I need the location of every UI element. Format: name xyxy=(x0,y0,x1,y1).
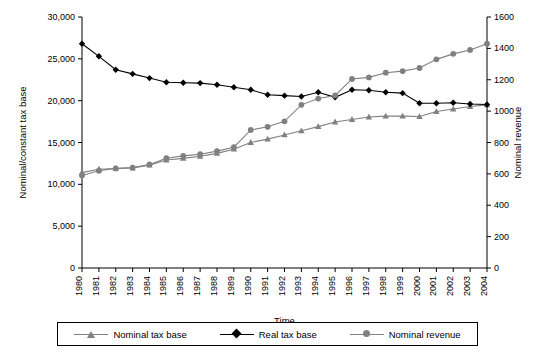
legend-label: Nominal tax base xyxy=(113,329,186,340)
svg-text:1997: 1997 xyxy=(361,276,371,296)
svg-text:1994: 1994 xyxy=(310,276,320,296)
svg-text:25,000: 25,000 xyxy=(47,54,75,64)
svg-text:2000: 2000 xyxy=(412,276,422,296)
svg-text:1981: 1981 xyxy=(91,276,101,296)
svg-text:2003: 2003 xyxy=(462,276,472,296)
svg-text:2004: 2004 xyxy=(479,276,489,296)
svg-text:1995: 1995 xyxy=(327,276,337,296)
triangle-icon xyxy=(74,329,108,339)
svg-text:2002: 2002 xyxy=(445,276,455,296)
svg-text:Nominal revenue: Nominal revenue xyxy=(512,107,523,179)
circle-icon xyxy=(350,329,384,339)
svg-text:15,000: 15,000 xyxy=(47,138,75,148)
svg-text:400: 400 xyxy=(494,200,509,210)
svg-text:1988: 1988 xyxy=(209,276,219,296)
svg-text:10,000: 10,000 xyxy=(47,179,75,189)
chart-container: 05,00010,00015,00020,00025,00030,0000200… xyxy=(0,0,535,357)
legend-item-nominal-revenue: Nominal revenue xyxy=(350,329,461,340)
legend-item-real-tax-base: Real tax base xyxy=(220,329,317,340)
svg-text:1996: 1996 xyxy=(344,276,354,296)
svg-text:1999: 1999 xyxy=(395,276,405,296)
svg-text:1989: 1989 xyxy=(226,276,236,296)
svg-text:30,000: 30,000 xyxy=(47,12,75,22)
svg-text:Nominal/constant tax base: Nominal/constant tax base xyxy=(17,87,28,199)
svg-text:0: 0 xyxy=(494,263,499,273)
svg-text:1990: 1990 xyxy=(243,276,253,296)
svg-text:800: 800 xyxy=(494,138,509,148)
svg-text:1993: 1993 xyxy=(293,276,303,296)
svg-text:1987: 1987 xyxy=(192,276,202,296)
legend-label: Real tax base xyxy=(259,329,317,340)
svg-text:1200: 1200 xyxy=(494,75,514,85)
svg-text:1998: 1998 xyxy=(378,276,388,296)
chart-legend: Nominal tax base Real tax base Nominal r… xyxy=(57,322,478,346)
svg-text:2001: 2001 xyxy=(428,276,438,296)
svg-text:1983: 1983 xyxy=(125,276,135,296)
svg-text:20,000: 20,000 xyxy=(47,96,75,106)
svg-text:600: 600 xyxy=(494,169,509,179)
svg-text:1985: 1985 xyxy=(158,276,168,296)
legend-item-nominal-tax-base: Nominal tax base xyxy=(74,329,186,340)
svg-text:1600: 1600 xyxy=(494,12,514,22)
legend-label: Nominal revenue xyxy=(389,329,461,340)
svg-text:1991: 1991 xyxy=(260,276,270,296)
svg-text:0: 0 xyxy=(70,263,75,273)
svg-text:1992: 1992 xyxy=(277,276,287,296)
svg-text:5,000: 5,000 xyxy=(52,221,75,231)
svg-text:1984: 1984 xyxy=(142,276,152,296)
svg-text:1982: 1982 xyxy=(108,276,118,296)
line-chart-plot: 05,00010,00015,00020,00025,00030,0000200… xyxy=(0,0,535,357)
diamond-icon xyxy=(220,329,254,339)
svg-text:1400: 1400 xyxy=(494,43,514,53)
svg-text:1980: 1980 xyxy=(74,276,84,296)
svg-text:1986: 1986 xyxy=(175,276,185,296)
svg-text:200: 200 xyxy=(494,232,509,242)
